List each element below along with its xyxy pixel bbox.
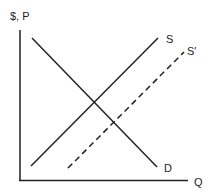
y-axis-label: $, P: [10, 10, 30, 22]
x-axis-label: Q: [194, 176, 203, 188]
demand-label: D: [164, 162, 172, 174]
supply-demand-chart: $, P S S′ D Q: [0, 0, 211, 192]
shifted-supply-label: S′: [187, 45, 196, 57]
supply-label: S: [166, 33, 173, 45]
